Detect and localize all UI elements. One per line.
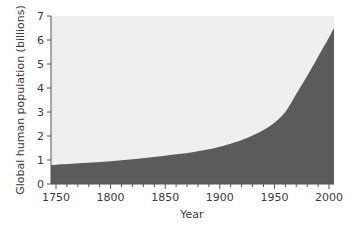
y-tick-label: 0 — [37, 178, 44, 191]
x-axis: 175018001850190019502000 — [42, 184, 343, 204]
y-tick-label: 2 — [37, 130, 44, 143]
x-tick-label: 1800 — [97, 191, 125, 204]
x-tick-label: 1900 — [206, 191, 234, 204]
x-tick-label: 1950 — [260, 191, 288, 204]
population-area-chart: 01234567 175018001850190019502000 Year G… — [0, 0, 356, 230]
y-tick-label: 6 — [37, 34, 44, 47]
y-tick-label: 1 — [37, 154, 44, 167]
y-axis: 01234567 — [37, 10, 51, 191]
x-tick-label: 1750 — [42, 191, 70, 204]
y-tick-label: 5 — [37, 58, 44, 71]
y-axis-title: Global human population (billions) — [14, 5, 27, 195]
x-axis-title: Year — [179, 208, 204, 221]
y-tick-label: 3 — [37, 106, 44, 119]
x-tick-label: 1850 — [151, 191, 179, 204]
x-tick-label: 2000 — [315, 191, 343, 204]
y-tick-label: 7 — [37, 10, 44, 23]
y-tick-label: 4 — [37, 82, 44, 95]
